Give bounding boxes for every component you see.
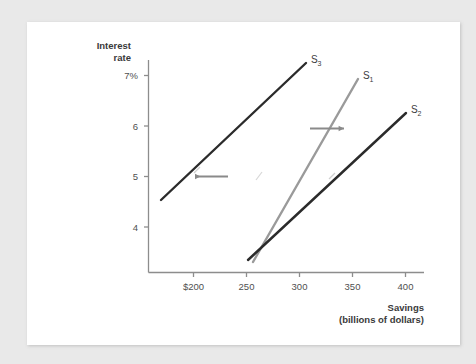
curve-s3: S 3 [161,54,322,200]
curve-s3-label-subscript: 3 [318,60,322,67]
y-tick-label-7: 7% [124,70,138,81]
figure-root: 7% 6 5 4 Interest rate $200 250 300 350 … [0,0,476,364]
y-axis-title-line2: rate [114,52,131,63]
y-tick-label-5: 5 [133,171,138,182]
savings-supply-chart: 7% 6 5 4 Interest rate $200 250 300 350 … [0,0,476,364]
x-axis-title-main: Savings [388,302,424,313]
curve-s1-label-subscript: 1 [370,76,374,83]
x-axis-title-units: (billions of dollars) [339,314,424,325]
y-tick-label-6: 6 [133,121,138,132]
x-tick-label-350: 350 [345,281,361,292]
chart-axes [149,60,425,273]
curve-s2-label-subscript: 2 [418,110,422,117]
y-axis-title-line1: Interest [97,40,132,51]
x-axis-ticks [194,273,406,278]
x-tick-label-400: 400 [398,281,414,292]
x-tick-label-200: $200 [183,281,204,292]
curve-s2: S 2 [248,104,422,260]
y-axis-tick-labels: 7% 6 5 4 [124,70,138,233]
curve-s1: S 1 [253,70,374,262]
curve-s3-line [161,63,306,200]
curve-s2-level-marker [329,173,335,179]
x-tick-label-250: 250 [239,281,255,292]
y-axis-ticks [144,76,149,228]
x-axis-tick-labels: $200 250 300 350 400 [183,281,414,292]
curve-s1-level-marker [256,172,262,180]
y-axis-title: Interest rate [97,40,132,63]
y-tick-label-4: 4 [133,222,138,233]
x-axis-title: Savings (billions of dollars) [339,302,424,325]
x-tick-label-300: 300 [292,281,308,292]
curve-s1-line [253,79,358,262]
